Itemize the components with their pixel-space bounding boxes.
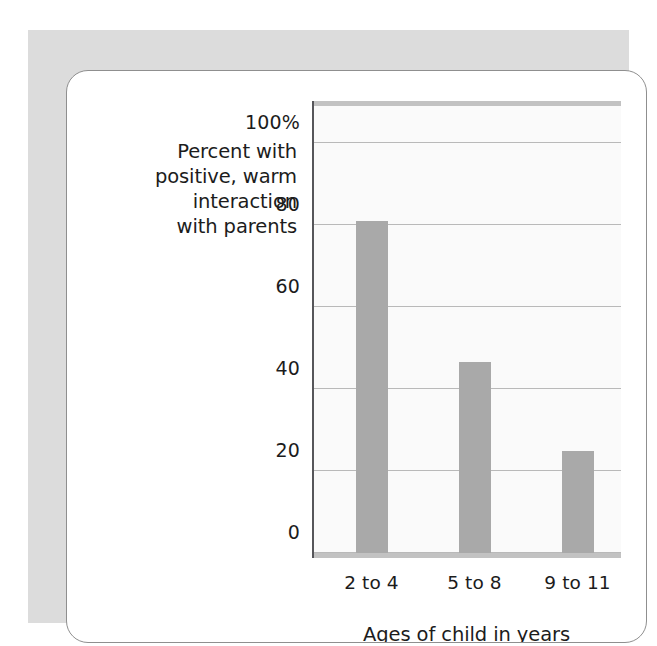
y-axis-title: Percent with positive, warm interaction … — [97, 139, 297, 239]
y-tick-label: 40 — [275, 357, 300, 379]
bar[interactable] — [356, 221, 388, 553]
x-tick-label: 5 to 8 — [447, 572, 501, 593]
y-tick-label: 60 — [275, 275, 300, 297]
bar[interactable] — [459, 362, 491, 553]
plot-area: 020406080100% 2 to 45 to 89 to 11 — [312, 101, 621, 558]
y-tick-label: 0 — [288, 521, 300, 543]
figure-outer-frame: Percent with positive, warm interaction … — [28, 30, 629, 623]
plot-top-band — [312, 101, 621, 106]
x-tick-label: 9 to 11 — [544, 572, 610, 593]
y-tick-label: 100% — [245, 111, 300, 133]
x-tick-label: 2 to 4 — [344, 572, 398, 593]
y-tick-label: 20 — [275, 439, 300, 461]
bar[interactable] — [562, 451, 594, 554]
gridline — [312, 142, 621, 143]
y-axis-spine — [312, 101, 314, 558]
plot-bottom-band — [312, 553, 621, 558]
y-tick-label: 80 — [275, 193, 300, 215]
figure-root: Percent with positive, warm interaction … — [0, 0, 657, 646]
figure-card: Percent with positive, warm interaction … — [66, 70, 647, 643]
x-axis-title: Ages of child in years — [312, 623, 621, 643]
